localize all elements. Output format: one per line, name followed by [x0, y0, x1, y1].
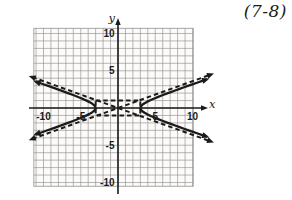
y-tick-label: 10: [103, 28, 115, 39]
x-axis-letter: x: [209, 97, 216, 111]
textbook-figure: x y -10-5510105-5-10 (7-8): [0, 0, 292, 200]
hyperbola-graph: x y -10-5510105-5-10: [0, 0, 292, 200]
y-tick-label: -5: [106, 140, 115, 151]
x-tick-label: 5: [152, 111, 158, 122]
lesson-number-label: (7-8): [244, 1, 287, 21]
x-tick-label: 10: [187, 111, 199, 122]
x-tick-label: -10: [36, 111, 51, 122]
y-tick-label: -10: [100, 177, 115, 188]
x-tick-label: -5: [76, 111, 85, 122]
y-tick-label: 5: [109, 65, 115, 76]
y-axis-letter: y: [108, 11, 116, 25]
